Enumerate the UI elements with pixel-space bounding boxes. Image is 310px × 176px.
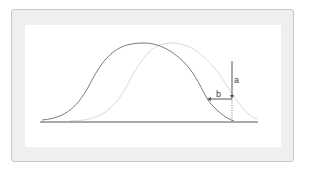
bell-curve-diagram: a b [0, 0, 310, 176]
label-a: a [234, 75, 239, 85]
shifted-curve [70, 43, 257, 121]
original-curve [42, 43, 234, 121]
arrow-a-head-icon [230, 95, 234, 99]
label-b: b [216, 89, 221, 99]
